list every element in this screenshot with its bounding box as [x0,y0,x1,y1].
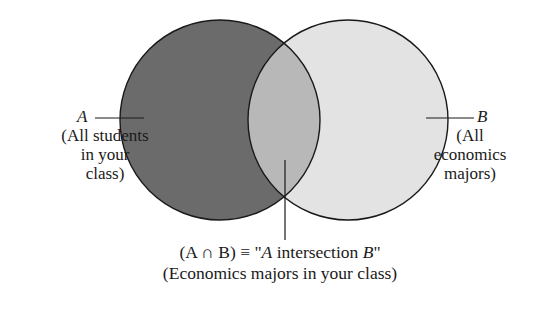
set-b-desc-line-1: (All [400,126,510,145]
set-b-desc-line-3: majors) [400,164,510,183]
intersection-description: (Economics majors in your class) [110,263,450,284]
notation-a: A [262,242,273,262]
set-b-symbol: B [400,107,510,126]
set-b-label: B (All economics majors) [400,107,510,183]
notation-b: B [363,242,374,262]
set-a-desc-line-3: class) [50,164,160,183]
notation-middle: intersection [272,242,362,262]
intersection-notation: (A ∩ B) ≡ "A intersection B" [110,242,450,263]
set-a-symbol: A [50,107,160,126]
set-a-desc-line-1: (All students [50,126,160,145]
set-a-desc-line-2: in your [50,145,160,164]
set-b-desc-line-2: economics [400,145,510,164]
set-a-label: A (All students in your class) [50,107,160,183]
notation-prefix: (A ∩ B) ≡ " [179,242,261,262]
notation-suffix: " [373,242,380,262]
intersection-label: (A ∩ B) ≡ "A intersection B" (Economics … [110,242,450,284]
